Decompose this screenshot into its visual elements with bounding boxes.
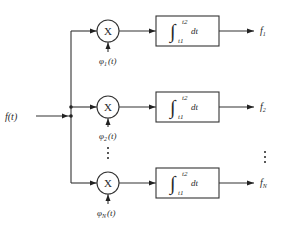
- ellipsis-dot: [264, 151, 266, 153]
- arrow-icon: [247, 181, 254, 186]
- ellipsis-dot: [107, 152, 109, 154]
- ellipsis-dot: [107, 147, 109, 149]
- arrow-icon: [90, 29, 97, 34]
- integrator-block: [156, 16, 219, 46]
- input-arrow-icon: [62, 114, 68, 119]
- output-label: fN: [260, 177, 268, 189]
- multiplier-symbol: X: [104, 25, 112, 37]
- basis-label: φ1(t): [99, 56, 116, 67]
- output-label: f1: [260, 25, 266, 37]
- correlator-bank-diagram: f(t) X φ1(t) ∫ t2 t1 dt f1 X φ2(t): [0, 0, 287, 238]
- arrow-icon: [149, 181, 156, 186]
- arrow-icon: [106, 119, 111, 126]
- arrow-icon: [247, 105, 254, 110]
- differential: dt: [191, 102, 199, 112]
- ellipsis-basis: [107, 147, 109, 159]
- ellipsis-dot: [264, 156, 266, 158]
- differential: dt: [191, 178, 199, 188]
- ellipsis-outputs: [264, 151, 266, 163]
- arrow-icon: [90, 105, 97, 110]
- arrow-icon: [149, 105, 156, 110]
- output-label: f2: [260, 101, 266, 113]
- ellipsis-dot: [107, 157, 109, 159]
- multiplier-symbol: X: [104, 101, 112, 113]
- basis-label: φN(t): [97, 208, 116, 219]
- branch-n: X φN(t) ∫ t2 t1 dt fN: [71, 168, 268, 219]
- arrow-icon: [106, 195, 111, 202]
- input-signal: f(t): [5, 111, 71, 123]
- basis-label: φ2(t): [99, 131, 116, 142]
- input-label: f(t): [5, 111, 18, 123]
- lower-limit: t1: [178, 113, 183, 121]
- lower-limit: t1: [178, 189, 183, 197]
- integrator-block: [156, 168, 219, 198]
- multiplier-symbol: X: [104, 177, 112, 189]
- upper-limit: t2: [182, 170, 188, 178]
- arrow-icon: [247, 29, 254, 34]
- arrow-icon: [90, 181, 97, 186]
- ellipsis-dot: [264, 161, 266, 163]
- lower-limit: t1: [178, 37, 183, 45]
- junction-dot: [69, 114, 73, 118]
- arrow-icon: [106, 43, 111, 50]
- branch-1: X φ1(t) ∫ t2 t1 dt f1: [71, 16, 266, 67]
- integrator-block: [156, 92, 219, 122]
- differential: dt: [191, 26, 199, 36]
- arrow-icon: [149, 29, 156, 34]
- upper-limit: t2: [182, 18, 188, 26]
- upper-limit: t2: [182, 94, 188, 102]
- branch-2: X φ2(t) ∫ t2 t1 dt f2: [71, 92, 266, 142]
